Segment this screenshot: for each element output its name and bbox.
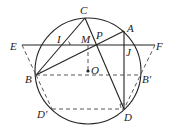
label-e: E [9, 40, 17, 52]
label-b-prime: B′ [142, 73, 152, 85]
label-d-prime: D′ [36, 108, 48, 120]
dashed-eb [22, 45, 36, 75]
label-j: J [126, 46, 132, 58]
label-p: P [95, 29, 103, 41]
label-m: M [80, 33, 91, 45]
label-b: B [25, 73, 32, 85]
label-a: A [126, 22, 134, 34]
line-ba [36, 31, 124, 75]
label-f: F [155, 40, 163, 52]
center-dot-o [86, 69, 89, 72]
label-i: I [56, 33, 62, 45]
dashed-bd-prime [36, 75, 52, 109]
label-d: D [123, 111, 132, 123]
geometry-diagram: C A E F I M P J O B B′ D′ D [0, 0, 173, 134]
label-c: C [80, 4, 88, 16]
label-o: O [91, 64, 99, 76]
line-cb [36, 18, 85, 75]
